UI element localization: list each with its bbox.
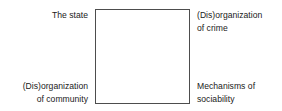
corner-label-top-right: (Dis)organization of crime (197, 9, 282, 34)
diagram-figure: The state (Dis)organization of crime (Di… (0, 0, 282, 111)
corner-label-top-left: The state (0, 9, 88, 22)
central-square-shape (95, 9, 190, 104)
corner-label-bottom-right: Mechanisms of sociability (197, 80, 282, 105)
corner-label-bottom-left: (Dis)organization of community (0, 80, 88, 105)
